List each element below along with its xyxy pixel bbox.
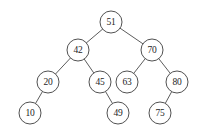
tree-edge-80-to-75 [165, 92, 171, 104]
node-label-42: 42 [73, 45, 83, 55]
tree-edge-42-to-45 [84, 59, 94, 73]
tree-node-10[interactable]: 10 [19, 102, 41, 124]
tree-node-20[interactable]: 20 [37, 71, 59, 93]
tree-edge-51-to-42 [86, 29, 102, 43]
node-layer: 51427020456380104975 [19, 11, 188, 124]
tree-edge-70-to-63 [134, 59, 145, 74]
node-label-49: 49 [113, 108, 123, 118]
tree-node-63[interactable]: 63 [116, 71, 138, 93]
tree-node-51[interactable]: 51 [100, 11, 122, 33]
node-label-63: 63 [122, 77, 132, 87]
node-label-45: 45 [95, 77, 105, 87]
node-label-10: 10 [25, 108, 35, 118]
node-label-70: 70 [147, 45, 157, 55]
tree-node-75[interactable]: 75 [149, 102, 171, 124]
tree-node-45[interactable]: 45 [89, 71, 111, 93]
node-label-80: 80 [172, 77, 182, 87]
tree-node-80[interactable]: 80 [166, 71, 188, 93]
tree-edge-42-to-20 [56, 58, 71, 74]
tree-canvas: 51427020456380104975 [0, 0, 201, 138]
node-label-75: 75 [155, 108, 165, 118]
tree-node-42[interactable]: 42 [67, 39, 89, 61]
tree-edge-45-to-49 [106, 92, 113, 104]
binary-search-tree-diagram: 51427020456380104975 [0, 0, 201, 138]
node-label-51: 51 [106, 17, 116, 27]
tree-edge-20-to-10 [36, 92, 43, 104]
tree-node-49[interactable]: 49 [107, 102, 129, 124]
tree-edge-70-to-80 [159, 59, 170, 74]
tree-edge-51-to-70 [120, 28, 143, 44]
node-label-20: 20 [43, 77, 53, 87]
tree-node-70[interactable]: 70 [141, 39, 163, 61]
